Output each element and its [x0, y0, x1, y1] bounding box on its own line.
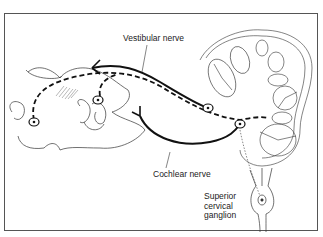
label-leaders — [142, 45, 170, 168]
superior-cervical-ganglion-label: Superior cervical ganglion — [204, 192, 264, 221]
dashed-pathway — [33, 73, 268, 120]
cochlear-nerve-fibre — [132, 106, 240, 144]
hatched-nucleus — [56, 86, 78, 99]
brainstem-outline — [10, 68, 145, 150]
vestibular-nerve-fibre — [92, 60, 208, 108]
cochlear-nerve-label: Cochlear nerve — [153, 170, 211, 180]
nerve-cells — [29, 96, 245, 128]
cochlea — [200, 30, 312, 166]
vestibular-nerve-label: Vestibular nerve — [123, 34, 184, 44]
